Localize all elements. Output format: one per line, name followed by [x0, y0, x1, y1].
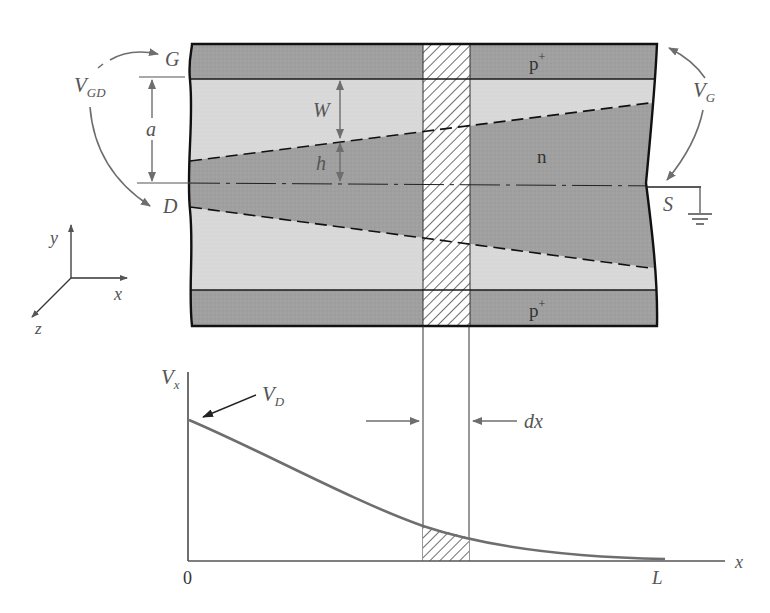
graph-y-label: Vx [161, 365, 180, 392]
graph-x-label: x [734, 552, 743, 572]
dimension-a: a [137, 77, 190, 183]
jfet-device [180, 44, 670, 326]
dimension-w-label: W [313, 99, 332, 121]
axis-y-label: y [48, 228, 58, 248]
jfet-diagram: p+ n p+ G D S VGD VG a W h [0, 0, 770, 613]
vg-annotation: VG [667, 48, 716, 180]
drain-terminal-label: D [162, 195, 178, 217]
vg-arrow-to-source [667, 110, 703, 180]
vg-arrow-to-top [669, 48, 705, 78]
vg-label: VG [693, 78, 716, 105]
dimension-h-label: h [316, 152, 326, 174]
vgd-arrow-to-gate [110, 52, 158, 60]
voltage-graph: Vx x 0 L VD [161, 365, 743, 588]
n-channel-label: n [537, 146, 547, 167]
vd-label: VD [262, 382, 285, 409]
hatched-slice-graph [423, 526, 469, 561]
coordinate-axes: y x z [32, 225, 127, 338]
axis-z-label: z [34, 319, 42, 338]
vgd-arrow-to-drain [90, 107, 150, 206]
source-terminal-label: S [663, 193, 673, 215]
dx-annotation: dx [366, 410, 543, 432]
dimension-a-label: a [146, 118, 156, 140]
vgd-label: VGD [74, 73, 106, 100]
dx-label: dx [524, 410, 543, 432]
axis-x-label: x [113, 284, 122, 304]
graph-end-label: L [651, 567, 663, 588]
graph-origin-label: 0 [183, 568, 192, 588]
gate-terminal-label: G [165, 48, 180, 70]
ground-icon [646, 187, 712, 224]
vd-pointer-arrow [203, 395, 256, 417]
